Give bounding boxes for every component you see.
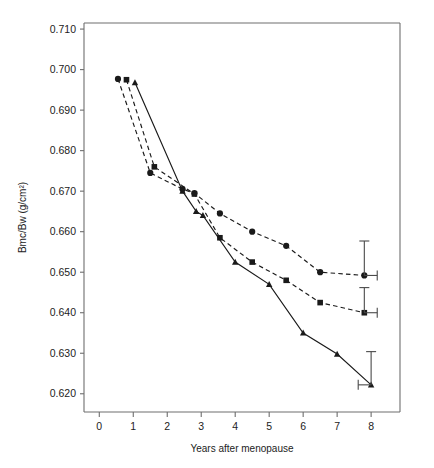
data-point-square: [192, 191, 198, 197]
y-tick-label: 0.660: [50, 225, 76, 237]
chart-figure: 0.6200.6300.6400.6500.6600.6700.6800.690…: [0, 0, 434, 468]
x-axis-ticks: 012345678: [96, 412, 374, 432]
data-point-triangle: [266, 281, 272, 287]
x-tick-label: 4: [232, 420, 238, 432]
y-tick-label: 0.650: [50, 266, 76, 278]
y-tick-label: 0.640: [50, 306, 76, 318]
y-tick-label: 0.710: [50, 23, 76, 35]
data-point-square: [152, 164, 158, 170]
x-tick-label: 1: [130, 420, 136, 432]
x-tick-label: 3: [198, 420, 204, 432]
series-square-series: [124, 77, 378, 318]
data-point-square: [283, 278, 289, 284]
x-tick-label: 7: [334, 420, 340, 432]
data-point-square: [249, 259, 255, 265]
x-axis-label: Years after menopause: [190, 443, 293, 454]
y-axis-ticks: 0.6200.6300.6400.6500.6600.6700.6800.690…: [50, 23, 84, 400]
y-tick-label: 0.700: [50, 63, 76, 75]
x-tick-label: 6: [300, 420, 306, 432]
data-point-square: [317, 300, 323, 306]
plot-frame: [84, 23, 400, 412]
error-bar: [358, 352, 376, 390]
series-circle-series: [115, 76, 377, 281]
y-tick-label: 0.630: [50, 347, 76, 359]
data-series-group: [115, 76, 377, 390]
y-tick-label: 0.680: [50, 144, 76, 156]
x-tick-label: 0: [96, 420, 102, 432]
y-axis-label: Bmc/Bw (g/cm²): [17, 182, 28, 253]
data-point-circle: [147, 170, 153, 176]
data-point-triangle: [334, 351, 340, 357]
y-tick-label: 0.690: [50, 104, 76, 116]
data-point-triangle: [200, 212, 206, 218]
x-tick-label: 2: [164, 420, 170, 432]
chart-canvas: 0.6200.6300.6400.6500.6600.6700.6800.690…: [0, 0, 434, 468]
data-point-circle: [115, 76, 121, 82]
series-line: [118, 79, 364, 276]
y-tick-label: 0.620: [50, 387, 76, 399]
data-point-circle: [283, 243, 289, 249]
data-point-triangle: [132, 79, 138, 85]
data-point-circle: [249, 229, 255, 235]
data-point-circle: [217, 210, 223, 216]
x-tick-label: 5: [266, 420, 272, 432]
data-point-circle: [317, 269, 323, 275]
y-tick-label: 0.670: [50, 185, 76, 197]
series-triangle-series: [132, 79, 376, 390]
series-line: [126, 80, 364, 313]
x-tick-label: 8: [368, 420, 374, 432]
data-point-square: [124, 77, 130, 83]
